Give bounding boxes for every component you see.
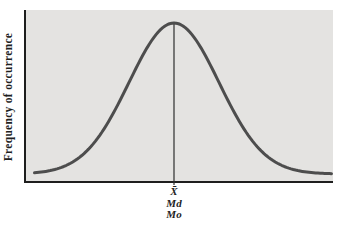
normal-curve-path (35, 23, 332, 174)
plot-area (24, 10, 333, 183)
center-stat-labels: X̄ Md Mo (166, 186, 181, 221)
mean-label: X̄ (166, 186, 181, 198)
mode-label: Mo (166, 209, 181, 221)
figure-canvas: Frequency of occurrence X̄ Md Mo (0, 0, 342, 236)
bell-curve-svg (26, 10, 333, 181)
y-axis-label: Frequency of occurrence (2, 17, 16, 177)
